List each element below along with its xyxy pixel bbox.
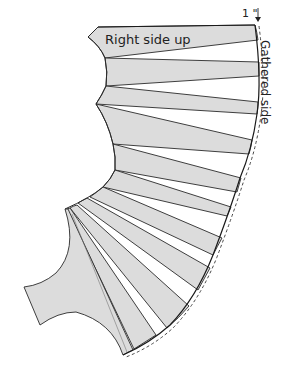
label-right-side-up: Right side up xyxy=(105,32,191,47)
label-seam-allowance: 1 " xyxy=(242,7,258,20)
pattern-piece-2 xyxy=(105,58,259,86)
label-gathered-side: Gathered side xyxy=(258,40,272,124)
pattern-diagram: 1 " Right side up Gathered side xyxy=(0,0,294,376)
pattern-svg: 1 " Right side up Gathered side xyxy=(0,0,294,376)
